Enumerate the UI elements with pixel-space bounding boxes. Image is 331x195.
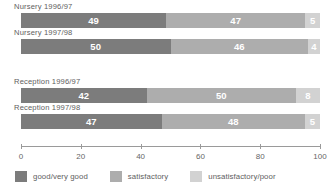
bar-segment-value: 49 [88, 16, 99, 26]
axis-tick [141, 144, 142, 149]
axis-tick [21, 144, 22, 149]
bar-segment-value: 4 [311, 42, 316, 52]
legend-label: satisfactory [128, 172, 168, 181]
bar-category-label: Nursery 1997/98 [14, 28, 72, 37]
bar-segment[interactable]: 48 [162, 114, 306, 129]
axis-tick [200, 144, 201, 149]
bar-segment-value: 50 [216, 91, 227, 101]
chart-legend: good/very goodsatisfactoryunsatisfactory… [15, 171, 298, 182]
bar-segment-value: 47 [86, 117, 97, 127]
stacked-bar[interactable]: 50464 [21, 39, 320, 54]
bar-category-label: Reception 1997/98 [14, 103, 80, 112]
legend-label: good/very good [33, 172, 88, 181]
legend-color-swatch [110, 171, 122, 182]
bar-segment[interactable]: 47 [21, 114, 162, 129]
stacked-bar[interactable]: 49475 [21, 13, 320, 28]
stacked-bar-chart: Nursery 1996/9749475Nursery 1997/9850464… [0, 0, 331, 195]
bar-segment[interactable]: 46 [171, 39, 309, 54]
legend-color-swatch [15, 171, 27, 182]
axis-tick-label: 60 [196, 152, 205, 161]
legend-color-swatch [190, 171, 202, 182]
legend-item[interactable]: good/very good [15, 171, 88, 182]
bar-segment[interactable]: 42 [21, 88, 147, 103]
x-axis [21, 146, 320, 147]
bar-segment-value: 8 [305, 91, 310, 101]
bar-segment[interactable]: 50 [21, 39, 171, 54]
bar-segment-value: 5 [310, 16, 315, 26]
axis-tick-label: 80 [256, 152, 265, 161]
bar-segment[interactable]: 5 [305, 114, 320, 129]
bar-segment[interactable]: 47 [166, 13, 305, 28]
bar-segment[interactable]: 4 [308, 39, 320, 54]
bar-category-label: Nursery 1996/97 [14, 2, 72, 11]
bar-segment[interactable]: 8 [296, 88, 320, 103]
legend-label: unsatisfactory/poor [208, 172, 275, 181]
plot-area: Nursery 1996/9749475Nursery 1997/9850464… [21, 0, 320, 140]
axis-tick-label: 40 [136, 152, 145, 161]
bar-segment[interactable]: 50 [147, 88, 297, 103]
bar-segment-value: 50 [90, 42, 101, 52]
axis-tick-label: 20 [76, 152, 85, 161]
axis-tick [320, 144, 321, 149]
legend-item[interactable]: satisfactory [110, 171, 168, 182]
stacked-bar[interactable]: 47485 [21, 114, 320, 129]
bar-segment-value: 5 [310, 117, 315, 127]
bar-segment-value: 46 [234, 42, 245, 52]
legend-item[interactable]: unsatisfactory/poor [190, 171, 275, 182]
axis-tick [260, 144, 261, 149]
axis-tick-label: 100 [313, 152, 326, 161]
bar-category-label: Reception 1996/97 [14, 77, 80, 86]
bar-segment-value: 48 [228, 117, 239, 127]
stacked-bar[interactable]: 42508 [21, 88, 320, 103]
bar-segment-value: 42 [78, 91, 89, 101]
bar-segment[interactable]: 49 [21, 13, 166, 28]
axis-tick-label: 0 [19, 152, 23, 161]
axis-tick [81, 144, 82, 149]
bar-segment[interactable]: 5 [305, 13, 320, 28]
bar-segment-value: 47 [230, 16, 241, 26]
